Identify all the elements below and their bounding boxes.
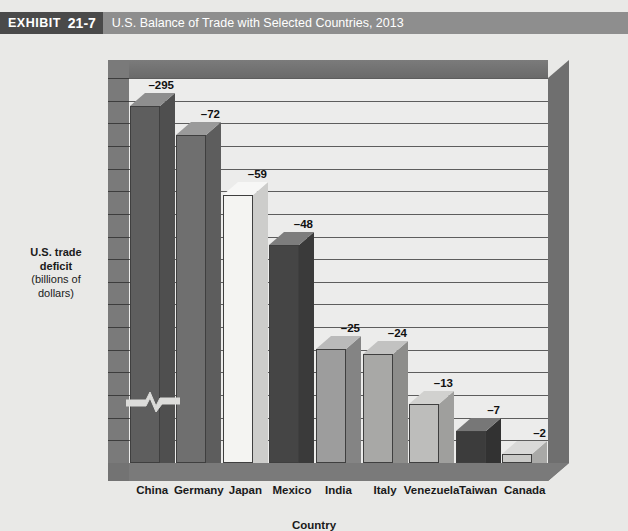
bar-india: –25 [316,336,346,463]
bar-face [502,454,532,463]
x-tick-label-germany: Germany [174,484,224,496]
y-axis-tick [108,282,129,283]
bar-value-label: –48 [294,218,313,230]
y-axis-tick [108,372,129,373]
x-tick-label-venezuela: Venezuela [404,484,460,496]
bar-italy: –24 [363,341,393,463]
y-axis-tick [108,214,129,215]
y-axis-tick [108,440,129,441]
bar-face [456,431,486,463]
y-axis-tick [108,169,129,170]
y-axis-tick [108,304,129,305]
y-axis-tick [108,327,129,328]
bar-face [409,404,439,463]
bar-face [269,245,299,463]
x-tick-label-italy: Italy [374,484,397,496]
x-axis-title: Country [0,519,628,531]
bar-value-label: –25 [341,322,360,334]
chart-back-wall-top-inner [108,60,548,78]
bar-face [176,135,206,463]
exhibit-tag-word: EXHIBIT [8,16,61,30]
bar-side [206,122,221,463]
exhibit-tag-number: 21-7 [68,15,96,31]
y-axis-tick [108,146,129,147]
gridline [129,101,548,102]
bar-germany: –72 [176,122,206,463]
y-axis-label-line3: (billions of [8,273,104,287]
bar-face [363,354,393,463]
chart-floor [108,463,569,481]
x-tick-label-japan: Japan [229,484,262,496]
bar-value-label: –295 [148,79,174,91]
bar-canada: –2 [502,441,532,463]
y-axis-tick [108,78,129,79]
exhibit-tag: EXHIBIT 21-7 [0,12,103,34]
bar-side [253,182,268,463]
bar-japan: –59 [223,182,253,463]
y-axis-label-line2: deficit [8,260,104,274]
bar-side [299,232,314,463]
x-tick-label-mexico: Mexico [272,484,311,496]
bar-value-label: –13 [434,377,453,389]
x-axis-tick-labels: ChinaGermanyJapanMexicoIndiaItalyVenezue… [108,484,569,500]
y-axis-tick [108,418,129,419]
y-axis-tick [108,350,129,351]
chart-right-wall [548,60,569,481]
bar-taiwan: –7 [456,418,486,463]
y-axis-tick [108,191,129,192]
x-tick-label-canada: Canada [504,484,546,496]
bar-value-label: –72 [201,108,220,120]
x-tick-label-taiwan: Taiwan [459,484,497,496]
bar-side [346,336,361,463]
y-axis-label-line4: dollars) [8,287,104,301]
exhibit-header: EXHIBIT 21-7 U.S. Balance of Trade with … [0,12,628,34]
bar-mexico: –48 [269,232,299,463]
bar-value-label: –2 [533,427,546,439]
bar-venezuela: –13 [409,391,439,463]
y-axis-tick [108,237,129,238]
x-tick-label-china: China [136,484,168,496]
axis-break-icon [126,386,180,412]
bar-value-label: –59 [248,168,267,180]
bar-side [393,341,408,463]
exhibit-title: U.S. Balance of Trade with Selected Coun… [112,16,404,30]
y-axis-label: U.S. trade deficit (billions of dollars) [8,246,104,300]
y-axis-label-line1: U.S. trade [8,246,104,260]
y-axis-tick [108,101,129,102]
bar-face [316,349,346,463]
chart-figure: –295–72–59–48–25–24–13–7–2 U.S. trade de… [0,34,628,523]
bar-value-label: –24 [388,327,407,339]
bar-face [223,195,253,463]
bar-value-label: –7 [487,404,500,416]
gridline [129,78,548,79]
y-axis-tick [108,259,129,260]
x-tick-label-india: India [325,484,352,496]
y-axis-tick [108,123,129,124]
